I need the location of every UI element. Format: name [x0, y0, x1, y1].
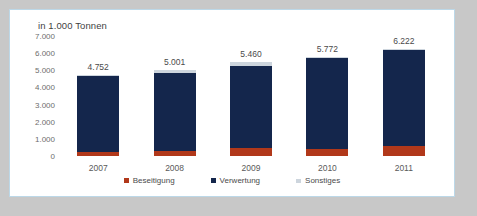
legend-swatch-icon — [124, 178, 129, 183]
stacked-bar[interactable] — [77, 75, 119, 156]
bar-column[interactable]: 5.7722010 — [306, 36, 348, 156]
y-axis-tick-label: 0 — [51, 152, 55, 161]
y-axis-tick-label: 2.000 — [35, 117, 55, 126]
stacked-bar[interactable] — [306, 57, 348, 156]
plot-area: 7.0006.0005.0004.0003.0002.0001.0000 4.7… — [60, 36, 442, 156]
bar-column[interactable]: 6.2222011 — [383, 36, 425, 156]
x-axis-tick-label: 2011 — [395, 163, 413, 173]
y-axis-tick-label: 5.000 — [35, 66, 55, 75]
x-axis-tick-label: 2008 — [165, 163, 184, 173]
legend-swatch-icon — [296, 179, 301, 183]
chart-frame: in 1.000 Tonnen 7.0006.0005.0004.0003.00… — [9, 9, 455, 197]
bar-segment-beseitigung[interactable] — [154, 151, 196, 156]
legend-item[interactable]: Sonstiges — [296, 176, 340, 185]
legend-label: Sonstiges — [305, 176, 340, 185]
stacked-bar[interactable] — [154, 70, 196, 156]
stacked-bar[interactable] — [230, 62, 272, 156]
bar-value-label: 5.772 — [317, 44, 338, 54]
bar-value-label: 4.752 — [88, 62, 109, 72]
chart-title: in 1.000 Tonnen — [38, 20, 107, 31]
legend-swatch-icon — [211, 178, 216, 183]
bar-segment-beseitigung[interactable] — [383, 146, 425, 156]
y-axis-tick-label: 6.000 — [35, 49, 55, 58]
bar-segment-beseitigung[interactable] — [306, 149, 348, 156]
chart-legend: BeseitigungVerwertungSonstiges — [10, 176, 454, 185]
bar-segment-beseitigung[interactable] — [230, 148, 272, 156]
x-axis-tick-label: 2007 — [89, 163, 108, 173]
y-axis-tick-label: 4.000 — [35, 83, 55, 92]
bar-segment-verwertung[interactable] — [77, 76, 119, 152]
legend-item[interactable]: Verwertung — [211, 176, 260, 185]
bar-segment-verwertung[interactable] — [154, 73, 196, 152]
bar-value-label: 5.460 — [240, 49, 261, 59]
bar-column[interactable]: 5.0012008 — [154, 36, 196, 156]
legend-item[interactable]: Beseitigung — [124, 176, 175, 185]
bar-segment-verwertung[interactable] — [306, 58, 348, 149]
bar-value-label: 6.222 — [393, 36, 414, 46]
bar-column[interactable]: 4.7522007 — [77, 36, 119, 156]
stacked-bar[interactable] — [383, 49, 425, 156]
legend-label: Verwertung — [220, 176, 260, 185]
bar-value-label: 5.001 — [164, 57, 185, 67]
legend-label: Beseitigung — [133, 176, 175, 185]
y-axis-tick-label: 3.000 — [35, 100, 55, 109]
x-axis-tick-label: 2010 — [318, 163, 337, 173]
bar-segment-beseitigung[interactable] — [77, 152, 119, 156]
y-axis-tick-label: 7.000 — [35, 32, 55, 41]
y-axis-tick-label: 1.000 — [35, 134, 55, 143]
bar-segment-verwertung[interactable] — [383, 50, 425, 145]
bar-column[interactable]: 5.4602009 — [230, 36, 272, 156]
bar-segment-verwertung[interactable] — [230, 66, 272, 148]
x-axis-tick-label: 2009 — [242, 163, 261, 173]
